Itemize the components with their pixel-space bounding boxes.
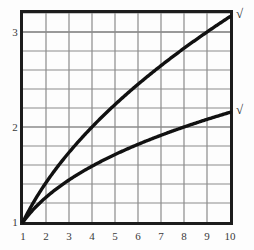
- root-functions-chart: 12345678910 123 √√: [0, 0, 254, 250]
- x-tick-label: 9: [204, 230, 210, 242]
- y-tick-label: 2: [12, 121, 18, 133]
- x-tick-label: 8: [181, 230, 187, 242]
- chart-background: [0, 0, 254, 250]
- x-tick-label: 5: [112, 230, 118, 242]
- curve-label-cube-root: √: [236, 102, 244, 117]
- y-tick-label: 3: [12, 26, 18, 38]
- chart-figure: 12345678910 123 √√: [0, 0, 254, 250]
- x-tick-label: 7: [158, 230, 164, 242]
- x-tick-label: 1: [20, 230, 26, 242]
- x-tick-label: 3: [66, 230, 72, 242]
- x-tick-label: 4: [89, 230, 95, 242]
- curve-label-square-root: √: [236, 6, 244, 21]
- x-tick-label: 10: [225, 230, 237, 242]
- x-tick-label: 6: [135, 230, 141, 242]
- x-tick-label: 2: [43, 230, 49, 242]
- y-tick-label: 1: [12, 216, 18, 228]
